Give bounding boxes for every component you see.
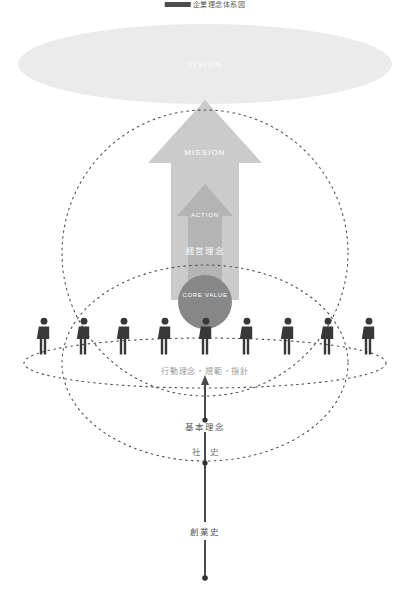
person-figure: [281, 318, 293, 355]
person-figure: [77, 318, 89, 355]
axis-node-origin: [202, 575, 208, 581]
axis-node-kihon: [202, 417, 207, 422]
people-row: [37, 318, 374, 355]
person-figure: [362, 318, 374, 355]
diagram-svg: [0, 0, 410, 594]
person-figure: [321, 318, 333, 355]
person-figure: [37, 318, 49, 355]
title-swatch: [165, 2, 191, 7]
axis-node-shashi: [202, 460, 207, 465]
page-title: 企業理念体系図: [165, 1, 246, 7]
axis-arrowhead: [201, 375, 209, 385]
vision-ellipse: [18, 24, 392, 104]
person-figure: [158, 318, 170, 355]
diagram-canvas: 企業理念体系図 VISION MISSION ACTION 経営理念 CORE …: [0, 0, 410, 594]
person-figure: [240, 318, 252, 355]
page-title-text: 企業理念体系図: [193, 0, 246, 9]
person-figure: [117, 318, 129, 355]
